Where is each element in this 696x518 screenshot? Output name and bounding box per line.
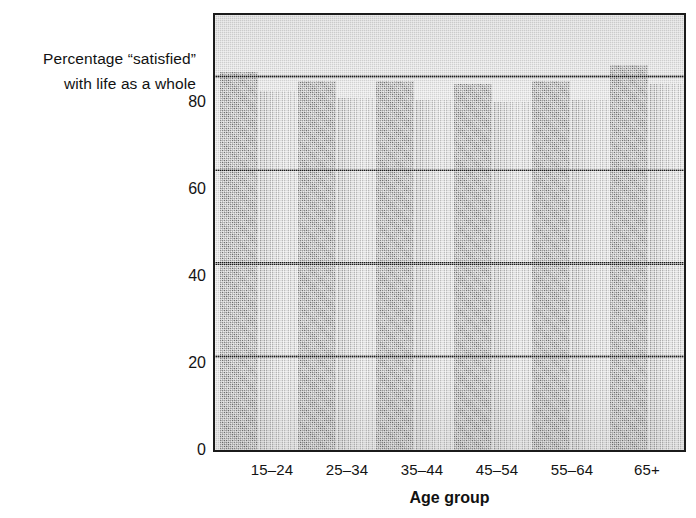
- bar-fill: [259, 91, 295, 450]
- bar-fill: [376, 81, 414, 450]
- y-tick-label-40: 40: [172, 267, 206, 285]
- bar-25_34-series-2: [337, 98, 373, 450]
- y-axis-title: Percentage “satisfied” with life as a wh…: [0, 46, 196, 96]
- y-tick-label-0: 0: [172, 441, 206, 459]
- bar-55_64-series-1: [532, 81, 570, 450]
- bar-15_24-series-2: [259, 91, 295, 450]
- bar-fill: [337, 98, 373, 450]
- bar-fill: [532, 81, 570, 450]
- bar-35_44-series-1: [376, 81, 414, 450]
- y-tick-label-60: 60: [172, 180, 206, 198]
- bar-45_54-series-1: [454, 84, 492, 450]
- y-tick-label-20: 20: [172, 354, 206, 372]
- bar-fill: [649, 84, 685, 450]
- bar-65+-series-2: [649, 84, 685, 450]
- bar-25_34-series-1: [298, 81, 336, 450]
- plot-area: [213, 13, 686, 452]
- bar-fill: [493, 102, 529, 450]
- bar-fill: [454, 84, 492, 450]
- gridline-80: [215, 75, 684, 78]
- bar-55_64-series-2: [571, 100, 607, 450]
- gridline-40: [215, 262, 684, 265]
- bar-65+-series-1: [610, 65, 648, 450]
- y-tick-label-80: 80: [172, 93, 206, 111]
- bar-fill: [610, 65, 648, 450]
- bar-45_54-series-2: [493, 102, 529, 450]
- y-axis-title-line-1: Percentage “satisfied”: [43, 50, 196, 67]
- bar-15_24-series-1: [220, 72, 258, 450]
- x-tick-label-5: 65+: [597, 461, 696, 478]
- bar-fill: [298, 81, 336, 450]
- bar-fill: [220, 72, 258, 450]
- bar-fill: [415, 100, 451, 450]
- y-axis-title-line-2: with life as a whole: [0, 71, 196, 96]
- x-axis-title: Age group: [213, 489, 686, 507]
- bar-fill: [571, 100, 607, 450]
- gridline-20: [215, 355, 684, 358]
- bar-35_44-series-2: [415, 100, 451, 450]
- gridline-60: [215, 169, 684, 172]
